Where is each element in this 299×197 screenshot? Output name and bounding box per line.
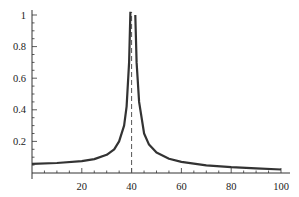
axes: 204060801000.20.40.60.81 xyxy=(13,10,290,193)
resonance-chart: 204060801000.20.40.60.81 xyxy=(0,0,299,197)
x-tick-label: 100 xyxy=(273,181,289,192)
x-tick-label: 40 xyxy=(126,181,137,192)
data-curve xyxy=(32,12,281,170)
y-tick-label: 0.6 xyxy=(13,73,26,84)
y-tick-label: 0.2 xyxy=(13,136,26,147)
x-tick-label: 20 xyxy=(77,181,88,192)
y-tick-label: 1 xyxy=(21,10,26,21)
y-tick-label: 0.8 xyxy=(13,41,26,52)
y-tick-label: 0.4 xyxy=(13,104,27,115)
x-tick-label: 60 xyxy=(176,181,187,192)
x-tick-label: 80 xyxy=(226,181,237,192)
